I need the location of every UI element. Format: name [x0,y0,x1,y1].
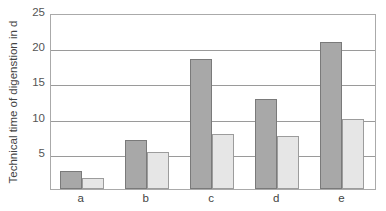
bar-e-series-1 [320,42,342,189]
bar-chart: Technical time of digenstion in d 510152… [0,0,386,211]
x-tick-label: e [331,192,351,204]
bar-e-series-2 [342,119,364,189]
x-tick-label: c [201,192,221,204]
bar-a-series-2 [82,178,104,189]
bar-c-series-2 [212,134,234,189]
x-tick-label: d [266,192,286,204]
bar-a-series-1 [60,171,82,189]
x-tick-label: a [71,192,91,204]
bar-d-series-2 [277,136,299,189]
y-axis-label: Technical time of digenstion in d [7,20,19,183]
y-tick-label: 5 [25,147,45,159]
bar-c-series-1 [190,59,212,189]
plot-area [50,14,376,190]
bar-d-series-1 [255,99,277,189]
bar-b-series-2 [147,152,169,189]
y-tick-label: 20 [25,41,45,53]
y-tick-label: 15 [25,76,45,88]
bar-b-series-1 [125,140,147,189]
y-tick-label: 10 [25,112,45,124]
x-tick-label: b [136,192,156,204]
y-tick-label: 25 [25,6,45,18]
